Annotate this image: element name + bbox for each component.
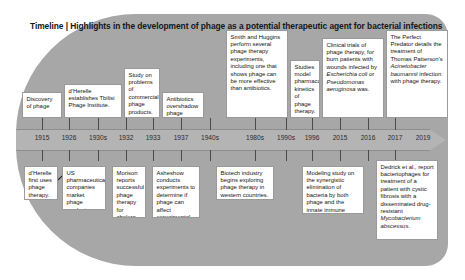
tick-1926-down [69, 150, 70, 161]
year-label-1937: 1937 [167, 134, 195, 141]
event-box-morison-cholera[interactable]: Morison reports successful phage therapy… [112, 166, 146, 218]
tick-1933-down [153, 150, 154, 161]
tick-1915-down [42, 150, 43, 161]
year-label-1980s: 1980s [240, 134, 270, 141]
event-box-perfect-predator[interactable]: The Perfect Predator details the treatme… [386, 30, 448, 118]
event-box-discovery-of-phage[interactable]: Discovery of phage [22, 92, 62, 118]
year-label-1915: 1915 [28, 134, 56, 141]
tick-1933-up [153, 118, 154, 130]
event-box-dherelle-first-uses[interactable]: d'Herelle first uses phage therapy. [24, 166, 58, 200]
event-box-dedrick-et-al[interactable]: Dedrick et al., report bacteriophages fo… [376, 160, 438, 240]
perfect-predator-lead-text: The Perfect Predator details the treatme… [391, 34, 443, 62]
event-box-asheshow-experiments[interactable]: Asheshow conducts experiments to determi… [152, 166, 200, 218]
clinical-trials-lead-text: Clinical trials of phage therapy, for bu… [327, 42, 377, 70]
tick-2015-up [340, 118, 341, 130]
event-box-biotech-industry[interactable]: Biotech industry begins exploring phage … [216, 166, 274, 200]
event-box-tbilisi-institute[interactable]: d'Herelle establishes Tbilisi Phage Inst… [64, 84, 122, 118]
event-box-smith-and-huggins[interactable]: Smith and Huggins perform several phage … [226, 30, 288, 118]
tick-1990s-down [286, 150, 287, 161]
tick-1937-down [181, 150, 182, 161]
dedrick-tail-text: . [408, 223, 410, 229]
tick-1940s-up [210, 118, 211, 130]
event-box-antibiotics-overshadow[interactable]: Antibiotics overshadow phage therapy. [162, 92, 204, 118]
timeline-figure: Timeline | Highlights in the development… [0, 0, 465, 280]
tick-1932-down [126, 150, 127, 161]
tick-1996-up [312, 118, 313, 130]
year-label-2019: 2019 [409, 134, 437, 141]
tick-1930s-down [98, 150, 99, 161]
year-label-2017: 2017 [381, 134, 409, 141]
tick-1980s-down [255, 150, 256, 161]
year-label-1926: 1926 [55, 134, 83, 141]
tick-1940s-down [210, 150, 211, 161]
tick-1980s-up [255, 118, 256, 130]
year-label-1930s: 1930s [83, 134, 113, 141]
year-label-1990s: 1990s [271, 134, 301, 141]
event-box-modeling-study[interactable]: Modeling study on the synergistic elimin… [302, 166, 364, 214]
year-label-1940s: 1940s [195, 134, 225, 141]
event-box-pharmacokinetics[interactable]: Studies model pharmaco-kinetics of phage… [290, 60, 320, 118]
tick-2017-up [395, 118, 396, 130]
event-box-clinical-trials[interactable]: Clinical trials of phage therapy, for bu… [322, 38, 384, 118]
year-label-1932: 1932 [112, 134, 140, 141]
tick-1930s-up [98, 118, 99, 130]
event-box-us-pharmaceutical[interactable]: US pharmaceutical companies market phage… [62, 166, 106, 210]
year-label-2016: 2016 [354, 134, 382, 141]
tick-1926-up [69, 118, 70, 130]
tick-1990s-up [286, 118, 287, 130]
tick-1932-up [126, 118, 127, 130]
year-label-1996: 1996 [298, 134, 326, 141]
clinical-trials-tail-text: was. [356, 86, 370, 92]
year-label-1933: 1933 [139, 134, 167, 141]
tick-2015-down [340, 150, 341, 161]
tick-1915-up [42, 118, 43, 130]
event-box-commercial-phage-products[interactable]: Study on problems of commercial phage pr… [124, 68, 160, 118]
clinical-trials-conjunction: or [367, 71, 374, 77]
tick-2016-down [368, 150, 369, 161]
tick-1996-down [312, 150, 313, 161]
dedrick-lead-text: Dedrick et al., report bacteriophages fo… [381, 164, 434, 214]
year-label-2015: 2015 [326, 134, 354, 141]
tick-2016-up [368, 118, 369, 130]
tick-1937-up [181, 118, 182, 130]
dedrick-species: Mycobacterium abscessus [381, 215, 421, 228]
clinical-trials-species-ecoli: Escherichia coli [327, 71, 368, 77]
